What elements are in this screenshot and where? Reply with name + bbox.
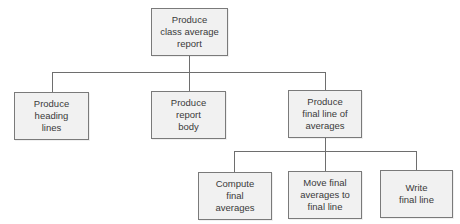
connector-to-write-final-line xyxy=(416,151,417,170)
node-label-line: Produce xyxy=(171,97,206,109)
node-label-line: report xyxy=(177,38,202,50)
node-produce-class-average-report: Produce class average report xyxy=(151,8,228,56)
node-label-line: Compute xyxy=(216,178,255,190)
node-label-line: averages xyxy=(215,202,254,214)
node-produce-final-line-of-averages: Produce final line of averages xyxy=(288,90,362,138)
node-produce-report-body: Produce report body xyxy=(151,91,226,139)
node-label-line: Write xyxy=(406,182,428,194)
node-label-line: averages to xyxy=(300,189,350,201)
node-produce-heading-lines: Produce heading lines xyxy=(14,92,89,140)
hierarchy-diagram: Produce class average report Produce hea… xyxy=(0,0,460,224)
connector-final-line-down xyxy=(325,138,326,152)
connector-to-report-body xyxy=(189,72,190,91)
connector-to-heading-lines xyxy=(52,72,53,92)
node-label-line: heading xyxy=(35,110,69,122)
node-label-line: Produce xyxy=(172,14,207,26)
node-label-line: Produce xyxy=(307,96,342,108)
node-write-final-line: Write final line xyxy=(380,170,453,218)
node-label-line: Move final xyxy=(303,177,346,189)
connector-to-move-final-averages xyxy=(325,151,326,171)
node-move-final-averages-to-final-line: Move final averages to final line xyxy=(288,171,362,219)
node-label-line: averages xyxy=(305,120,344,132)
connector-to-compute-final-averages xyxy=(234,151,235,172)
node-label-line: final line xyxy=(399,194,434,206)
node-compute-final-averages: Compute final averages xyxy=(198,172,272,220)
connector-to-final-line-of-averages xyxy=(325,72,326,90)
node-label-line: Produce xyxy=(34,98,69,110)
node-label-line: final line xyxy=(308,201,343,213)
node-label-line: final line of xyxy=(302,108,347,120)
connector-root-down xyxy=(189,56,190,73)
node-label-line: report xyxy=(176,109,201,121)
node-label-line: lines xyxy=(42,122,62,134)
node-label-line: class average xyxy=(160,26,219,38)
node-label-line: final xyxy=(226,190,243,202)
node-label-line: body xyxy=(178,121,199,133)
